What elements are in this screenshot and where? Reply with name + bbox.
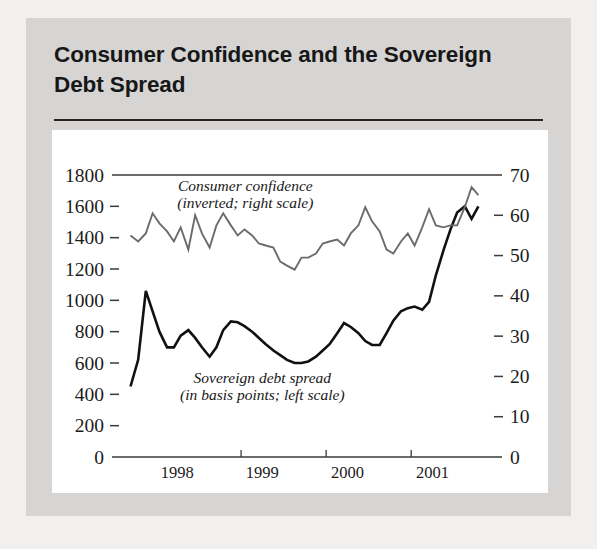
left-tick-1200: 1200 — [65, 259, 104, 280]
x-axis-tick-labels: 1998199920002001 — [161, 463, 449, 482]
x-axis-label-2000: 2000 — [331, 463, 364, 482]
spread-annotation-line-2: (in basis points; left scale) — [180, 386, 344, 404]
title-divider — [54, 119, 543, 121]
left-tick-1000: 1000 — [65, 290, 104, 311]
left-tick-1800: 1800 — [65, 165, 104, 186]
right-tick-50: 50 — [510, 245, 530, 266]
left-tick-200: 200 — [75, 415, 104, 436]
right-tick-30: 30 — [510, 326, 530, 347]
x-axis-label-2001: 2001 — [416, 463, 449, 482]
line-chart: 020040060080010001200140016001800 010203… — [52, 130, 548, 493]
page-title: Consumer Confidence and the Sovereign De… — [54, 40, 524, 99]
chart-panel: 020040060080010001200140016001800 010203… — [52, 130, 548, 493]
spread-annotation-line-1: Sovereign debt spread — [194, 369, 332, 386]
right-axis-tick-labels: 010203040506070 — [510, 165, 530, 468]
data-series-group — [131, 187, 479, 386]
x-axis-label-1998: 1998 — [161, 463, 194, 482]
left-axis-tick-labels: 020040060080010001200140016001800 — [65, 165, 104, 468]
figure-title-line-1: Consumer Confidence and the Sovereign — [54, 42, 492, 67]
confidence-annotation-line-2: (inverted; right scale) — [177, 194, 313, 212]
right-tick-40: 40 — [510, 285, 530, 306]
x-axis-label-1999: 1999 — [246, 463, 279, 482]
right-tick-20: 20 — [510, 366, 530, 387]
figure-title-block: Consumer Confidence and the Sovereign De… — [54, 40, 524, 99]
x-axis — [241, 450, 411, 457]
left-tick-1400: 1400 — [65, 227, 104, 248]
page-background: Consumer Confidence and the Sovereign De… — [0, 0, 597, 549]
right-tick-60: 60 — [510, 205, 530, 226]
chart-annotations: Consumer confidence(inverted; right scal… — [177, 177, 344, 404]
figure-title-line-2: Debt Spread — [54, 72, 185, 97]
left-tick-1600: 1600 — [65, 196, 104, 217]
axis-tick-marks — [110, 175, 503, 457]
right-tick-70: 70 — [510, 165, 530, 186]
right-tick-0: 0 — [510, 447, 520, 468]
left-tick-600: 600 — [75, 353, 104, 374]
left-tick-400: 400 — [75, 384, 104, 405]
left-tick-0: 0 — [94, 447, 104, 468]
left-tick-800: 800 — [75, 321, 104, 342]
figure-card: Consumer Confidence and the Sovereign De… — [26, 18, 571, 516]
confidence-annotation-line-1: Consumer confidence — [178, 177, 313, 194]
right-tick-10: 10 — [510, 406, 530, 427]
